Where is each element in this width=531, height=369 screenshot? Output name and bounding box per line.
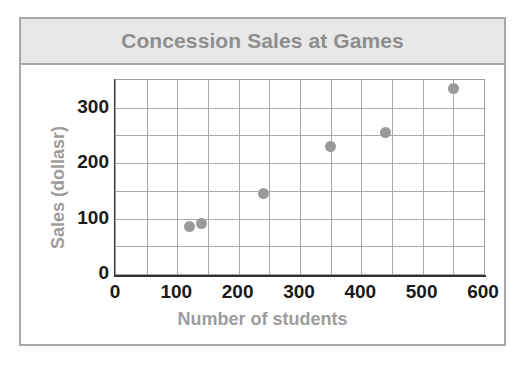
x-tick-label: 600 bbox=[453, 281, 513, 303]
chart-title: Concession Sales at Games bbox=[121, 29, 404, 53]
x-axis-line bbox=[114, 275, 486, 277]
x-tick-label: 500 bbox=[392, 281, 452, 303]
data-point bbox=[184, 221, 195, 232]
gridline-vertical bbox=[300, 80, 301, 274]
gridline-vertical bbox=[269, 80, 270, 274]
x-axis-label: Number of students bbox=[21, 309, 504, 330]
gridline-horizontal bbox=[116, 191, 484, 192]
gridline-vertical bbox=[361, 80, 362, 274]
chart-title-band: Concession Sales at Games bbox=[21, 19, 504, 65]
x-tick-label: 0 bbox=[85, 281, 145, 303]
data-point bbox=[380, 127, 391, 138]
data-point bbox=[258, 188, 269, 199]
chart-body: Sales (dollasr) 0100200300 Number of stu… bbox=[21, 65, 504, 344]
gridline-horizontal bbox=[116, 219, 484, 220]
chart-figure: Concession Sales at Games Sales (dollasr… bbox=[19, 17, 506, 346]
y-tick-label: 100 bbox=[49, 207, 109, 229]
gridline-vertical bbox=[147, 80, 148, 274]
y-tick-label: 200 bbox=[49, 151, 109, 173]
gridline-horizontal bbox=[116, 108, 484, 109]
data-point bbox=[325, 141, 336, 152]
plot-area bbox=[115, 79, 485, 275]
gridline-vertical bbox=[423, 80, 424, 274]
gridline-vertical bbox=[208, 80, 209, 274]
gridline-vertical bbox=[331, 80, 332, 274]
data-point bbox=[196, 218, 207, 229]
x-tick-label: 200 bbox=[208, 281, 268, 303]
gridline-vertical bbox=[392, 80, 393, 274]
x-tick-label: 300 bbox=[269, 281, 329, 303]
gridline-horizontal bbox=[116, 246, 484, 247]
data-point bbox=[448, 83, 459, 94]
gridline-horizontal bbox=[116, 163, 484, 164]
gridline-vertical bbox=[453, 80, 454, 274]
gridline-horizontal bbox=[116, 135, 484, 136]
y-tick-label: 300 bbox=[49, 96, 109, 118]
x-tick-label: 100 bbox=[146, 281, 206, 303]
x-tick-label: 400 bbox=[330, 281, 390, 303]
gridline-vertical bbox=[239, 80, 240, 274]
gridline-vertical bbox=[177, 80, 178, 274]
